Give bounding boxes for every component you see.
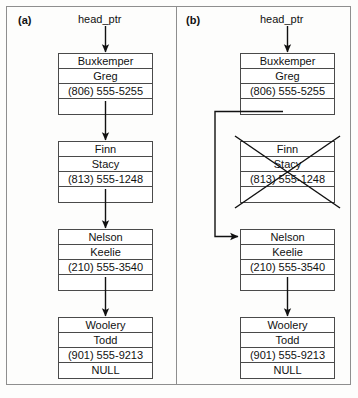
- node-phone: (901) 555-9213: [241, 348, 334, 363]
- node-next-pointer: [241, 99, 334, 114]
- list-node: Nelson Keelie (210) 555-3540: [240, 229, 335, 291]
- linked-list-figure: (a) head_ptr Buxkemper Greg (806) 555-52…: [0, 0, 358, 398]
- node-first-name: Keelie: [59, 245, 152, 260]
- node-phone: (901) 555-9213: [59, 348, 152, 363]
- node-next-pointer: [59, 275, 152, 290]
- list-node: Buxkemper Greg (806) 555-5255: [240, 53, 335, 115]
- node-first-name: Keelie: [241, 245, 334, 260]
- list-node: Finn Stacy (813) 555-1248: [58, 141, 153, 203]
- node-next-pointer: [241, 187, 334, 202]
- node-first-name: Greg: [241, 69, 334, 84]
- node-first-name: Todd: [59, 333, 152, 348]
- list-node: Woolery Todd (901) 555-9213 NULL: [240, 317, 335, 379]
- node-phone: (813) 555-1248: [241, 172, 334, 187]
- node-phone: (806) 555-5255: [241, 84, 334, 99]
- panel-label-b: (b): [186, 14, 200, 26]
- node-last-name: Finn: [59, 142, 152, 157]
- node-last-name: Buxkemper: [241, 54, 334, 69]
- node-last-name: Woolery: [241, 318, 334, 333]
- node-first-name: Todd: [241, 333, 334, 348]
- node-next-pointer: [59, 187, 152, 202]
- node-last-name: Finn: [241, 142, 334, 157]
- node-first-name: Greg: [59, 69, 152, 84]
- node-next-pointer: [241, 275, 334, 290]
- head-pointer-label-b: head_ptr: [260, 13, 303, 25]
- node-phone: (210) 555-3540: [241, 260, 334, 275]
- node-first-name: Stacy: [241, 157, 334, 172]
- node-last-name: Nelson: [241, 230, 334, 245]
- node-phone: (210) 555-3540: [59, 260, 152, 275]
- node-null-pointer: NULL: [241, 363, 334, 378]
- node-null-pointer: NULL: [59, 363, 152, 378]
- node-first-name: Stacy: [59, 157, 152, 172]
- node-last-name: Nelson: [59, 230, 152, 245]
- head-pointer-label-a: head_ptr: [78, 13, 121, 25]
- list-node: Woolery Todd (901) 555-9213 NULL: [58, 317, 153, 379]
- node-phone: (806) 555-5255: [59, 84, 152, 99]
- node-last-name: Woolery: [59, 318, 152, 333]
- node-last-name: Buxkemper: [59, 54, 152, 69]
- node-phone: (813) 555-1248: [59, 172, 152, 187]
- panel-label-a: (a): [18, 14, 31, 26]
- list-node: Nelson Keelie (210) 555-3540: [58, 229, 153, 291]
- list-node: Buxkemper Greg (806) 555-5255: [58, 53, 153, 115]
- panel-divider: [176, 7, 177, 384]
- list-node-deleted: Finn Stacy (813) 555-1248: [240, 141, 335, 203]
- node-next-pointer: [59, 99, 152, 114]
